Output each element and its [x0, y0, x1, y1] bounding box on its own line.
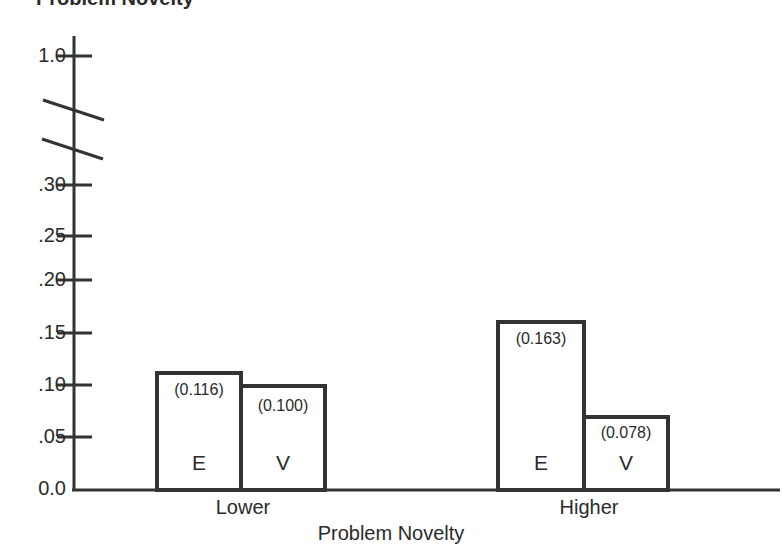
- ytick-label: .10: [6, 373, 66, 396]
- x-axis-label: Problem Novelty: [0, 522, 782, 545]
- bar-letter: V: [586, 451, 666, 475]
- ytick-label: .20: [6, 268, 66, 291]
- bar-letter: V: [243, 451, 323, 475]
- category-label-higher: Higher: [529, 496, 649, 519]
- bar-letter: E: [500, 451, 582, 475]
- bar-higher-e: (0.163) E: [496, 320, 586, 492]
- bar-value-label: (0.163): [500, 330, 582, 348]
- bar-letter: E: [159, 451, 239, 475]
- category-label-lower: Lower: [183, 496, 303, 519]
- bar-lower-e: (0.116) E: [155, 371, 243, 492]
- ytick-label: .30: [6, 173, 66, 196]
- ytick-label: 0.0: [6, 477, 66, 500]
- ytick-label: .25: [6, 224, 66, 247]
- ytick-label: .15: [6, 321, 66, 344]
- ytick-label: .05: [6, 425, 66, 448]
- ytick-label: 1.0: [6, 44, 66, 67]
- bar-lower-v: (0.100) V: [239, 384, 327, 492]
- bar-higher-v: (0.078) V: [582, 415, 670, 492]
- bar-value-label: (0.116): [159, 381, 239, 399]
- bar-value-label: (0.100): [243, 397, 323, 415]
- bar-value-label: (0.078): [586, 424, 666, 442]
